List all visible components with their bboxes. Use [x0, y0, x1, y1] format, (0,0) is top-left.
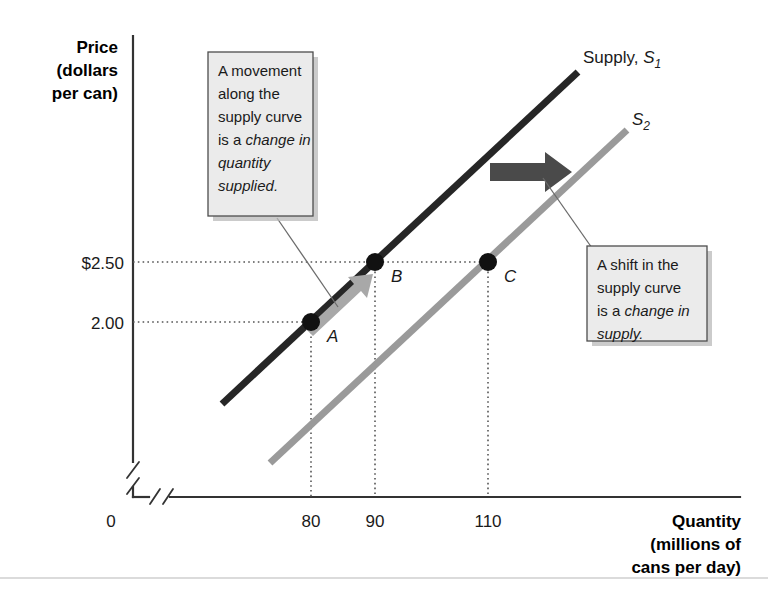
callout-shift-line2: supply curve: [597, 279, 681, 296]
x-tick-label-0: 0: [106, 512, 115, 531]
y-tick-label-250: $2.50: [81, 254, 124, 273]
callout-movement-line5: quantity: [218, 154, 272, 171]
callout-shift-line4: supply.: [597, 325, 643, 342]
x-tick-label-80: 80: [302, 512, 321, 531]
curve-label-s1-prefix: Supply,: [583, 48, 643, 67]
data-point-label-a: A: [326, 327, 338, 346]
callout-movement-line4-roman: is a: [218, 131, 246, 148]
y-axis-title-line1: Price: [76, 38, 118, 57]
chart-svg: Price (dollars per can): [0, 0, 768, 602]
callout-shift-line3: is a change in: [597, 302, 690, 319]
curve-label-s2-subscript: 2: [642, 119, 650, 133]
y-tick-label-200: 2.00: [91, 314, 124, 333]
callout-movement-line2: along the: [218, 85, 280, 102]
data-point-label-c: C: [504, 267, 517, 286]
y-axis-title-line3: per can): [52, 84, 118, 103]
callout-movement-line4: is a change in: [218, 131, 311, 148]
data-point-c: [479, 253, 497, 271]
x-tick-label-90: 90: [366, 512, 385, 531]
x-axis-title-line3: cans per day): [631, 558, 741, 577]
supply-curve-figure: Price (dollars per can): [0, 0, 768, 602]
curve-label-s1-symbol: S: [643, 48, 655, 67]
callout-movement-line4-italic: change in: [246, 131, 311, 148]
y-axis-title-line2: (dollars: [57, 61, 118, 80]
x-axis-title-line1: Quantity: [672, 512, 741, 531]
callout-shift-line3-roman: is a: [597, 302, 625, 319]
callout-movement-line3: supply curve: [218, 108, 302, 125]
callout-movement-line1: A movement: [218, 62, 302, 79]
data-point-b: [366, 253, 384, 271]
x-tick-label-110: 110: [474, 512, 501, 531]
x-axis-title-line2: (millions of: [650, 535, 741, 554]
callout-movement-line6: supplied.: [218, 177, 278, 194]
curve-label-s2-symbol: S: [632, 110, 644, 129]
callout-shift-line1: A shift in the: [597, 256, 679, 273]
data-point-label-b: B: [391, 267, 402, 286]
curve-label-s1-subscript: 1: [655, 57, 662, 71]
data-point-a: [302, 313, 320, 331]
callout-shift-line3-italic: change in: [625, 302, 690, 319]
